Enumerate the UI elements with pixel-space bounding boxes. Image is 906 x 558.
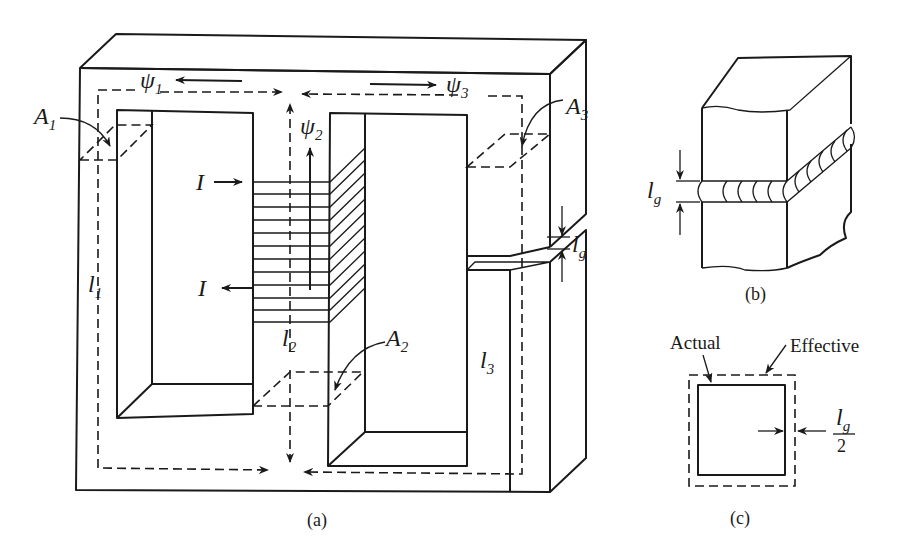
effective-label: Effective bbox=[790, 335, 859, 356]
l3-label: l3 bbox=[480, 347, 494, 377]
actual-label: Actual bbox=[670, 332, 721, 353]
lg-half-denominator: 2 bbox=[837, 436, 846, 456]
panel-a-labels: ψ1 ψ2 ψ3 A1 A2 A3 l1 l2 l3 lg I I (a) bbox=[32, 67, 588, 531]
psi2-label: ψ2 bbox=[300, 113, 323, 143]
area-pointer-arrows bbox=[60, 100, 563, 390]
panel-c-cross-section: Actual Effective lg 2 (c) bbox=[670, 332, 859, 529]
A1-label: A1 bbox=[32, 103, 56, 133]
A2-label: A2 bbox=[384, 325, 409, 355]
panel-a-core bbox=[76, 34, 586, 492]
psi1-label: ψ1 bbox=[140, 67, 162, 97]
caption-b: (b) bbox=[745, 284, 766, 305]
current-arrows bbox=[214, 182, 252, 288]
lg-half-numerator: lg bbox=[836, 404, 851, 434]
caption-c: (c) bbox=[730, 508, 750, 529]
magnetic-circuit-figure: ψ1 ψ2 ψ3 A1 A2 A3 l1 l2 l3 lg I I (a) bbox=[0, 0, 906, 558]
caption-a: (a) bbox=[307, 510, 327, 531]
panel-b-gap-block: lg (b) bbox=[647, 56, 855, 305]
current-in-label: I bbox=[195, 169, 205, 195]
current-out-label: I bbox=[197, 275, 207, 301]
l1-label: l1 bbox=[88, 271, 102, 301]
A3-label: A3 bbox=[564, 93, 588, 123]
psi3-label: ψ3 bbox=[446, 71, 468, 101]
lg-label-b: lg bbox=[647, 177, 662, 207]
